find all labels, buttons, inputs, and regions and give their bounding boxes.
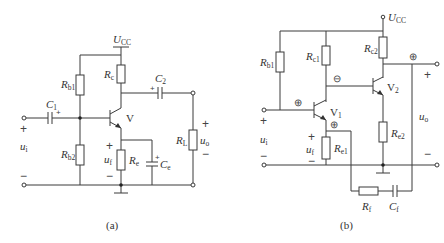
ground-node-a <box>119 183 123 187</box>
input-terminal-bottom-b <box>262 163 266 167</box>
circuit-diagrams: UCC Rb1 Rb2 C1 + Rc C2 + <box>0 0 444 243</box>
input-terminal-top-b <box>262 108 266 112</box>
circuit-a: UCC Rb1 Rb2 C1 + Rc C2 + <box>20 33 210 232</box>
ui-minus-sign: − <box>20 169 27 183</box>
label-rc1-b: Rc1 <box>305 50 320 64</box>
caption-b: (b) <box>340 219 353 232</box>
resistor-rb1-b <box>276 52 284 72</box>
label-v1-b: V1 <box>330 106 342 120</box>
ui-minus-sign-b: − <box>260 149 267 163</box>
label-c2-a: C2 <box>155 72 166 86</box>
label-re-a: Re <box>128 154 140 168</box>
label-v2-b: V2 <box>387 81 399 95</box>
uf-plus-sign: + <box>106 139 113 153</box>
transistor-v2-b <box>373 77 383 95</box>
output-terminal-top-a <box>191 91 195 95</box>
resistor-re2-b <box>379 122 387 142</box>
resistor-rf-b <box>359 187 378 195</box>
base-node-a <box>78 116 82 120</box>
output-terminal-bottom-b <box>435 163 439 167</box>
resistor-rl-a <box>189 130 197 150</box>
output-terminal-bottom-a <box>191 183 195 187</box>
supply-terminal-b <box>381 15 385 19</box>
uo-plus-sign-b: + <box>424 68 431 82</box>
uo-plus-sign: + <box>202 117 209 131</box>
label-v-a: V <box>126 112 134 124</box>
uf-plus-sign-b: + <box>308 130 315 144</box>
label-re2-b: Re2 <box>390 127 405 141</box>
input-terminal-top-a <box>22 116 26 120</box>
output-terminal-top-b <box>435 62 439 66</box>
supply-label-b: UCC <box>388 11 406 25</box>
label-rf-b: Rf <box>361 200 372 214</box>
ground-node-b <box>381 163 385 167</box>
uf-minus-sign-b: − <box>308 154 315 168</box>
uo-minus-sign: − <box>202 147 209 161</box>
resistor-rb1-a <box>76 75 84 95</box>
label-rc-a: Rc <box>103 68 115 82</box>
label-uo-a: uo <box>200 134 210 148</box>
supply-label-a: UCC <box>113 33 131 47</box>
polarity-output: ⊕ <box>409 51 417 62</box>
label-cf-b: Cf <box>389 200 399 214</box>
circuit-b: UCC Rb1 ⊕ Rc1 ⊖ V1 ⊕ Re1 <box>259 11 439 232</box>
label-rb1-b: Rb1 <box>259 56 274 70</box>
resistor-rc-a <box>117 65 125 83</box>
polarity-v1-base: ⊕ <box>294 97 302 108</box>
polarity-v1-collector: ⊖ <box>333 73 341 84</box>
caption-a: (a) <box>106 219 119 232</box>
c1-polarity-plus: + <box>56 108 61 117</box>
resistor-rc1-b <box>322 46 330 65</box>
label-rc2-b: Rc2 <box>363 42 378 56</box>
label-rb1-a: Rb1 <box>60 78 75 92</box>
polarity-v1-emitter: ⊕ <box>330 119 338 130</box>
label-uf-a: uf <box>104 153 113 167</box>
label-ce-a: Ce <box>160 158 171 172</box>
label-re1-b: Re1 <box>333 142 348 156</box>
ui-plus-sign-b: + <box>260 114 267 128</box>
transistor-v1-b <box>314 100 326 120</box>
label-ui-a: ui <box>20 140 28 154</box>
resistor-re1-b <box>322 137 330 159</box>
c2-polarity-plus: + <box>150 84 155 93</box>
uf-minus-sign: − <box>106 169 113 183</box>
resistor-rb2-a <box>76 145 84 165</box>
transistor-v-a <box>110 108 121 128</box>
label-rl-a: RL <box>175 134 188 148</box>
label-rb2-a: Rb2 <box>60 148 75 162</box>
resistor-re-a <box>117 150 125 170</box>
input-terminal-bottom-a <box>22 183 26 187</box>
label-uo-b: uo <box>419 110 429 124</box>
resistor-rc2-b <box>379 37 387 58</box>
uo-minus-sign-b: − <box>424 147 431 161</box>
label-ui-b: ui <box>260 133 268 147</box>
ui-plus-sign: + <box>20 122 27 136</box>
